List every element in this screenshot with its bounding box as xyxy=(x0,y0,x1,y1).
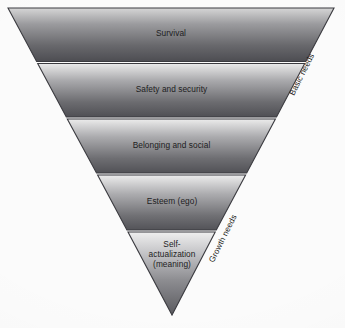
band-shape-safety-and-security xyxy=(38,64,305,118)
band-shape-self-actualization xyxy=(128,232,215,315)
band-shape-esteem-ego xyxy=(98,175,246,230)
band-shape-survival xyxy=(8,8,334,62)
band-shape-belonging-and-social xyxy=(67,119,275,173)
pyramid-graphic xyxy=(0,0,345,328)
inverted-hierarchy-of-needs-diagram: Survival Safety and security Belonging a… xyxy=(0,0,345,328)
